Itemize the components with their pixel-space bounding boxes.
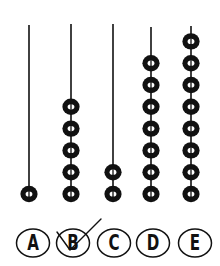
bead-icon (142, 99, 159, 115)
answer-option-e[interactable]: E (179, 229, 212, 257)
bead-icon (182, 55, 199, 71)
rod-b (62, 24, 79, 202)
answer-options: ABCDE (17, 229, 212, 257)
bead-icon (182, 164, 199, 180)
abacus-figure: ABCDE (0, 0, 220, 266)
bead-icon (182, 77, 199, 93)
abacus-question: ABCDE (0, 0, 220, 266)
bead-icon (62, 120, 79, 136)
bead-icon (142, 164, 159, 180)
rod-e (182, 26, 199, 202)
option-label: E (190, 231, 200, 255)
rod-a (20, 25, 37, 202)
option-label: A (27, 231, 39, 255)
check-mark-icon (57, 219, 101, 250)
bead-icon (182, 33, 199, 49)
answer-option-d[interactable]: D (137, 229, 170, 257)
bead-icon (104, 164, 121, 180)
answer-option-a[interactable]: A (17, 229, 50, 257)
bead-icon (182, 99, 199, 115)
bead-icon (62, 186, 79, 202)
option-label: C (108, 231, 119, 255)
answer-option-c[interactable]: C (98, 229, 131, 257)
rod-d (142, 27, 159, 202)
bead-icon (182, 120, 199, 136)
bead-icon (182, 142, 199, 158)
bead-icon (104, 186, 121, 202)
bead-icon (142, 55, 159, 71)
bead-icon (62, 164, 79, 180)
bead-icon (62, 142, 79, 158)
answer-option-b[interactable]: B (57, 229, 90, 257)
rod-c (104, 24, 121, 202)
bead-icon (142, 186, 159, 202)
option-label: D (147, 231, 160, 255)
bead-icon (142, 77, 159, 93)
bead-icon (142, 142, 159, 158)
bead-icon (182, 186, 199, 202)
bead-icon (142, 120, 159, 136)
bead-icon (20, 186, 37, 202)
bead-icon (62, 99, 79, 115)
abacus-rods (20, 24, 199, 202)
